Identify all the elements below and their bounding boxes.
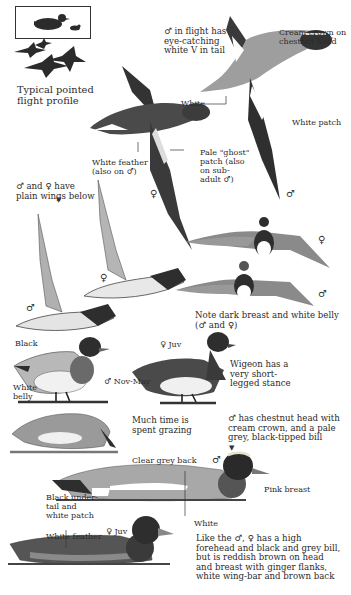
female-juv-label-swimming: ♀ Juv <box>106 527 127 536</box>
duck-silhouette-icon <box>16 7 90 38</box>
male-symbol-flight: ♂ <box>286 188 295 199</box>
female-wigeon-belly-view <box>186 217 330 268</box>
flight-profile-caption: Typical pointed flight profile <box>17 85 94 107</box>
female-symbol-flight: ♀ <box>150 188 157 199</box>
white-patch-label: White patch <box>292 118 341 127</box>
flight-silhouettes-icon <box>14 38 86 78</box>
white-label-flight: White <box>181 99 205 108</box>
female-symbol-belly: ♀ <box>318 234 325 245</box>
male-wigeon-belly-view <box>176 261 314 306</box>
male-symbol-belly: ♂ <box>318 288 327 299</box>
flight-profile-inset <box>15 6 91 39</box>
arrow-down-icon: ▼ <box>229 444 234 452</box>
clear-grey-back-label: Clear grey back <box>132 456 197 465</box>
male-symbol-swimming: ♂ <box>212 454 221 465</box>
pink-breast-label: Pink breast <box>264 485 310 494</box>
belly-note: Note dark breast and white belly (♂ and … <box>195 311 339 330</box>
grazing-note: Much time is spent grazing <box>132 416 192 435</box>
female-symbol-underwing: ♀ <box>100 272 107 283</box>
male-head-note: ♂ has chestnut head with cream crown, an… <box>228 414 340 443</box>
ghost-patch-note: Pale "ghost" patch (also on sub- adult ♂… <box>200 148 249 184</box>
black-undertail-label: Black under- tail and white patch <box>46 493 98 520</box>
white-feather-note: White feather (also on ♂) <box>92 158 148 176</box>
male-symbol-underwing: ♂ <box>26 302 35 313</box>
black-label: Black <box>15 339 38 348</box>
female-juv-wigeon-standing <box>132 332 236 403</box>
stance-note: Wigeon has a very short- legged stance <box>230 360 291 389</box>
female-juv-label-standing: ♀ Juv <box>160 340 181 349</box>
female-description-note: Like the ♂, ♀ has a high forehead and bl… <box>196 534 340 582</box>
white-feather-label: White feather <box>46 532 102 541</box>
male-season-label: ♂ Nov-May <box>104 377 150 386</box>
white-belly-label: White belly <box>13 383 37 401</box>
arrow-down-icon: ▼ <box>56 196 61 204</box>
male-tail-note: ♂ in flight has eye-catching white V in … <box>164 27 226 56</box>
white-label-swimming: White <box>194 519 218 528</box>
crown-note: Cream crown on chestnut head <box>279 28 346 46</box>
wigeon-grazing <box>10 414 118 452</box>
